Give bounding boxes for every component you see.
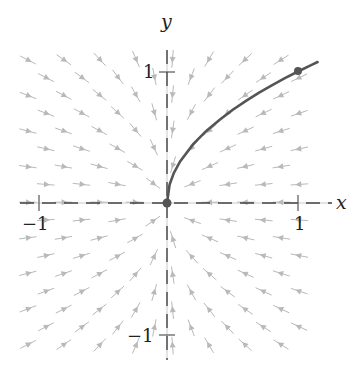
arrowhead-icon	[224, 289, 231, 295]
arrowhead-icon	[26, 235, 32, 241]
arrowhead-icon	[79, 181, 85, 187]
y-tick-label-1: 1	[143, 61, 154, 82]
arrowhead-icon	[278, 56, 285, 62]
arrowhead-icon	[61, 163, 68, 169]
arrowhead-icon	[150, 180, 157, 186]
arrowhead-icon	[79, 145, 86, 151]
arrowhead-icon	[242, 163, 249, 169]
arrowhead-icon	[295, 146, 302, 152]
arrowhead-icon	[114, 324, 120, 331]
arrowhead-icon	[170, 57, 176, 63]
arrowhead-icon	[242, 199, 248, 205]
arrowhead-icon	[295, 289, 302, 295]
arrowhead-icon	[115, 218, 122, 224]
arrowhead-icon	[242, 92, 249, 98]
arrowhead-icon	[79, 325, 86, 331]
arrowhead-icon	[278, 342, 285, 348]
arrowhead-icon	[44, 253, 51, 259]
arrowhead-icon	[260, 181, 266, 187]
arrowhead-icon	[61, 127, 68, 133]
arrowhead-icon	[170, 127, 176, 133]
arrowhead-icon	[277, 199, 283, 205]
arrowhead-icon	[62, 199, 68, 205]
arrowhead-icon	[242, 235, 249, 241]
arrowhead-icon	[97, 236, 104, 242]
arrowhead-icon	[61, 56, 68, 62]
arrowhead-icon	[295, 110, 302, 116]
arrowhead-icon	[96, 307, 103, 313]
arrowhead-icon	[61, 342, 68, 348]
arrowhead-icon	[26, 199, 32, 205]
arrowhead-icon	[277, 235, 283, 241]
arrowhead-icon	[260, 74, 267, 80]
arrowhead-icon	[79, 74, 86, 80]
arrowhead-icon	[295, 253, 302, 259]
y-tick-label-neg1: −1	[127, 325, 154, 346]
origin-point	[163, 199, 172, 208]
arrowhead-icon	[43, 145, 50, 151]
arrowhead-icon	[207, 91, 213, 98]
arrowhead-icon	[260, 217, 266, 223]
y-axis-label: y	[160, 10, 172, 32]
point-1-1	[294, 67, 302, 75]
arrowhead-icon	[277, 128, 284, 134]
arrowhead-icon	[170, 306, 176, 312]
arrowhead-icon	[207, 307, 213, 314]
arrowhead-icon	[151, 109, 157, 116]
arrowhead-icon	[150, 219, 157, 225]
arrowhead-icon	[96, 92, 103, 98]
arrowhead-icon	[97, 199, 103, 205]
arrowhead-icon	[170, 341, 176, 347]
x-tick-label-neg1: −1	[22, 213, 49, 234]
arrowhead-icon	[97, 163, 104, 169]
arrowhead-icon	[206, 199, 212, 205]
arrowhead-icon	[170, 92, 176, 98]
arrowhead-icon	[260, 145, 267, 151]
x-axis-label: x	[336, 191, 347, 213]
arrowhead-icon	[295, 181, 301, 187]
arrowhead-icon	[151, 289, 157, 296]
arrowhead-icon	[277, 163, 283, 169]
arrowhead-icon	[224, 181, 230, 187]
arrowhead-icon	[25, 128, 32, 134]
arrowhead-icon	[242, 307, 249, 313]
arrowhead-icon	[224, 217, 230, 223]
x-tick-label-1: 1	[294, 213, 305, 234]
arrowhead-icon	[44, 181, 50, 187]
arrowhead-icon	[171, 236, 177, 243]
arrowhead-icon	[277, 271, 284, 277]
arrowhead-icon	[170, 271, 176, 277]
arrowhead-icon	[133, 199, 139, 205]
arrowhead-icon	[61, 271, 68, 277]
arrowhead-icon	[189, 218, 196, 224]
arrowhead-icon	[26, 163, 32, 169]
arrowhead-icon	[25, 271, 32, 277]
slope-field-plot: y x −1 1 1 −1	[0, 0, 363, 381]
arrowhead-icon	[260, 325, 267, 331]
arrowhead-icon	[115, 181, 122, 187]
arrowhead-icon	[61, 235, 67, 241]
arrowhead-icon	[114, 74, 120, 81]
arrowhead-icon	[260, 253, 267, 259]
